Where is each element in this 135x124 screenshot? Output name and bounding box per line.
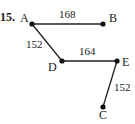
- vertex-label-e: E: [122, 55, 129, 69]
- vertex-label-b: B: [109, 11, 117, 25]
- vertex-label-a: A: [20, 11, 29, 25]
- edge-weight-a-d: 152: [26, 38, 43, 50]
- vertex-labels: ABDEC: [20, 11, 129, 122]
- vertex-dot-b: [100, 21, 105, 26]
- edge-weight-e-c: 152: [114, 81, 131, 93]
- graph-edges: [32, 24, 117, 107]
- edge-weight-a-b: 168: [59, 8, 76, 20]
- vertex-dot-e: [114, 58, 119, 63]
- weighted-graph-diagram: 15. 168152164152 ABDEC: [0, 0, 135, 124]
- problem-number: 15.: [0, 10, 15, 24]
- vertex-dot-d: [59, 58, 64, 63]
- vertex-dot-a: [29, 21, 34, 26]
- vertex-label-c: C: [99, 108, 107, 122]
- edge-weight-d-e: 164: [79, 45, 96, 57]
- vertex-label-d: D: [48, 60, 57, 74]
